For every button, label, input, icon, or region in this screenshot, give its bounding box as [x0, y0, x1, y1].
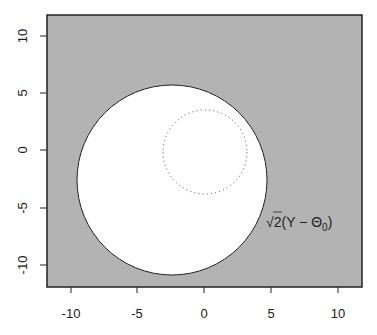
svg-text:0: 0 — [200, 306, 207, 321]
svg-text:5: 5 — [15, 89, 30, 96]
outer-circle — [77, 85, 267, 275]
svg-text:5: 5 — [267, 306, 274, 321]
svg-text:-5: -5 — [15, 202, 30, 214]
svg-text:-5: -5 — [131, 306, 143, 321]
x-axis — [71, 287, 338, 293]
svg-text:0: 0 — [15, 146, 30, 153]
svg-text:-10: -10 — [62, 306, 81, 321]
y-axis — [40, 36, 47, 265]
svg-text:10: 10 — [331, 306, 345, 321]
chart: √2(Y − Θ0) -10 -5 0 5 10 -10 -5 0 5 10 — [0, 0, 377, 335]
svg-text:-10: -10 — [15, 256, 30, 275]
svg-text:10: 10 — [15, 29, 30, 43]
x-tick-labels: -10 -5 0 5 10 — [62, 306, 346, 321]
y-tick-labels: -10 -5 0 5 10 — [15, 29, 30, 275]
